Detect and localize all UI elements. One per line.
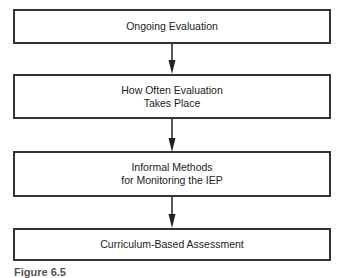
node-label: Ongoing Evaluation: [126, 20, 218, 33]
node-label-line2: Takes Place: [121, 97, 223, 110]
node-how-often-evaluation: How Often Evaluation Takes Place: [13, 74, 331, 119]
node-label-line1: How Often Evaluation: [121, 84, 223, 97]
arrow-3-icon: [167, 197, 177, 228]
node-ongoing-evaluation: Ongoing Evaluation: [13, 9, 331, 44]
node-label-line1: Informal Methods: [121, 161, 223, 174]
figure-caption: Figure 6.5: [14, 266, 66, 278]
node-curriculum-based-assessment: Curriculum-Based Assessment: [13, 228, 331, 261]
node-label: Curriculum-Based Assessment: [100, 238, 244, 251]
arrow-1-icon: [167, 44, 177, 74]
arrow-2-icon: [167, 119, 177, 152]
node-informal-methods: Informal Methods for Monitoring the IEP: [13, 151, 331, 197]
node-label-line2: for Monitoring the IEP: [121, 174, 223, 187]
